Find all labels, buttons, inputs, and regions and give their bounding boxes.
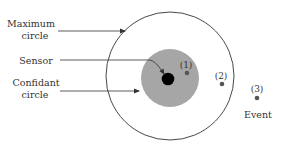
sensor-range-diagram: (1) (2) (3) Event Maximum circle Sensor … <box>0 0 281 151</box>
event-dot-1 <box>185 71 190 76</box>
confidant-circle-label-line2: circle <box>22 89 49 100</box>
event-dot-3 <box>255 96 260 101</box>
maximum-circle-label-line1: Maximum <box>7 18 55 29</box>
confidant-circle-label-line1: Confidant <box>12 77 59 88</box>
event-label-1: (1) <box>180 60 193 70</box>
event-label-3: (3) <box>251 84 264 94</box>
sensor-label: Sensor <box>19 55 53 66</box>
sensor-dot <box>162 73 175 86</box>
maximum-circle-label-line2: circle <box>22 30 49 41</box>
event-label-2: (2) <box>215 71 228 81</box>
event-dot-2 <box>220 82 225 87</box>
event-caption: Event <box>244 109 272 120</box>
